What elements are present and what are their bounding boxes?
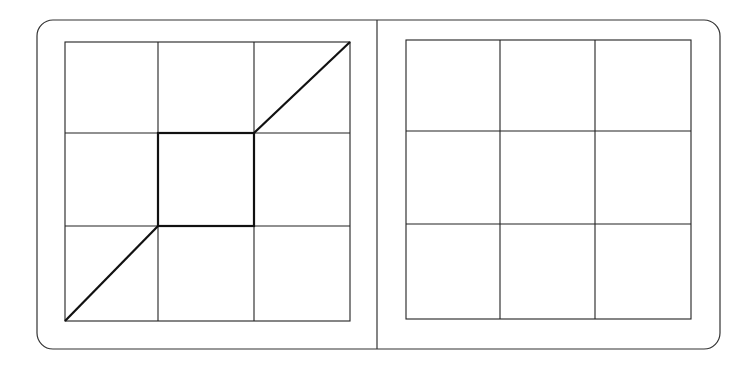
diagonal-line-upper <box>254 42 350 133</box>
outer-frame <box>37 20 720 349</box>
left-grid-highlight <box>65 42 350 321</box>
right-grid <box>406 40 691 319</box>
highlighted-center-cell <box>158 133 254 226</box>
two-panel-grid-diagram <box>0 0 753 365</box>
diagonal-line-lower <box>65 226 158 321</box>
